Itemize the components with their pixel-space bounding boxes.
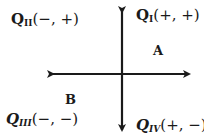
- quadrant-iii-label: QIII(−, −): [6, 112, 78, 128]
- quadrant-signs: (−, −): [32, 110, 78, 128]
- quadrant-signs: (+, +): [153, 6, 199, 24]
- quadrant-subscript: III: [19, 118, 32, 128]
- quadrant-letter: Q: [136, 116, 149, 134]
- quadrant-signs: (+, −): [160, 116, 204, 134]
- quadrant-subscript: II: [24, 18, 32, 28]
- quadrant-subscript: IV: [149, 124, 160, 134]
- quadrant-signs: (−, +): [33, 10, 79, 28]
- region-a-label: A: [153, 44, 163, 57]
- quadrant-letter: Q: [11, 10, 24, 28]
- region-b-label: B: [65, 93, 76, 106]
- quadrant-letter: Q: [6, 110, 19, 128]
- quadrant-i-label: QI(+, +): [136, 8, 200, 24]
- quadrant-ii-label: QII(−, +): [11, 12, 79, 28]
- quadrant-letter: Q: [136, 6, 149, 24]
- quadrant-iv-label: QIV(+, −): [136, 118, 204, 134]
